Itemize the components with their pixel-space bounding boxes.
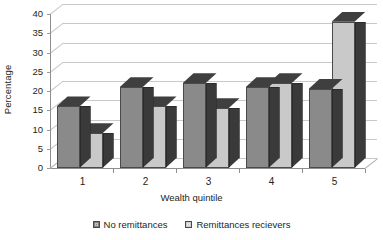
bar	[120, 87, 143, 168]
x-axis-tick-mark	[113, 169, 114, 173]
bar-front-face	[183, 83, 206, 168]
legend-item[interactable]: Remittances recievers	[185, 219, 290, 230]
bar-side-face	[292, 83, 303, 168]
bar	[57, 106, 80, 168]
x-axis-tick-mark	[365, 169, 366, 173]
x-axis-tick-label: 5	[320, 176, 350, 187]
bar-front-face	[246, 87, 269, 168]
bar-front-face	[57, 106, 80, 168]
x-axis-tick-mark	[302, 169, 303, 173]
bar-side-face	[166, 106, 177, 168]
x-axis-tick-label: 3	[194, 176, 224, 187]
legend-item[interactable]: No remittances	[93, 219, 168, 230]
chart-container: Percentage 0510152025303540 12345 Wealth…	[0, 0, 383, 240]
bar	[309, 89, 332, 168]
bar-side-face	[143, 87, 154, 168]
plot-area: 0510152025303540	[0, 0, 383, 200]
bar-side-face	[206, 83, 217, 168]
bar-side-face	[80, 106, 91, 168]
bar-side-face	[355, 22, 366, 168]
x-axis-tick-label: 4	[257, 176, 287, 187]
light-swatch-icon	[185, 221, 192, 228]
x-axis-tick-mark	[176, 169, 177, 173]
x-axis-tick-label: 1	[68, 176, 98, 187]
bar	[183, 83, 206, 168]
bar-front-face	[309, 89, 332, 168]
bar-side-face	[229, 108, 240, 168]
bar-front-face	[120, 87, 143, 168]
bar-side-face	[332, 89, 343, 168]
x-axis-title: Wealth quintile	[0, 192, 383, 203]
x-axis-tick-mark	[239, 169, 240, 173]
x-axis-tick-label: 2	[131, 176, 161, 187]
legend-item-label: Remittances recievers	[196, 219, 290, 230]
bar-series-layer	[0, 0, 383, 200]
bar-side-face	[103, 133, 114, 168]
dark-swatch-icon	[93, 221, 100, 228]
bar	[246, 87, 269, 168]
legend-item-label: No remittances	[104, 219, 168, 230]
chart-legend: No remittancesRemittances recievers	[0, 219, 383, 230]
bar-side-face	[269, 87, 280, 168]
